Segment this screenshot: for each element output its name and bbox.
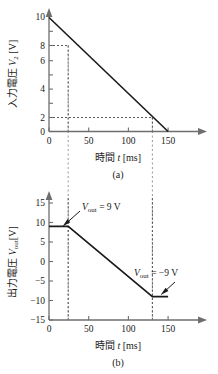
panel-a-ytick-2: 2 [40,113,45,123]
panel-a-ytick-6: 6 [40,56,45,66]
panel-b-ylabel-main: 出力電圧 [6,258,18,298]
panel-b-caption: (b) [112,357,124,369]
panel-b-ytick-10: 10 [36,218,46,228]
panel-a-xtick-150: 150 [161,136,176,146]
svg-text:出力電圧 Vout[V]: 出力電圧 Vout[V] [6,226,20,297]
panel-a-xtick-0: 0 [47,136,52,146]
panel-b-ytick-5: 5 [40,237,45,247]
panel-b-xtick-150: 150 [161,324,176,334]
panel-a-ytick-0: 0 [40,127,45,137]
panel-a-xtick-50: 50 [84,136,94,146]
panel-b-ytick-neg10: −10 [30,296,45,306]
panel-b-x-axis-title: 時間 t [ms] [95,340,141,351]
panel-a-xlabel-unit: [ms] [123,152,141,163]
panel-b-xlabel-unit: [ms] [123,340,141,351]
panel-a-xtick-100: 100 [121,136,136,146]
panel-b-xtick-50: 50 [84,324,94,334]
panel-b-ylabel-sub: out [12,240,20,249]
figure-container: 0 2 4 6 8 10 0 50 100 150 入力電圧 [0,0,218,374]
panel-b-xtick-0: 0 [47,324,52,334]
panel-a-caption: (a) [112,169,123,181]
panel-b-xlabel-main: 時間 [95,340,115,351]
panel-a-ylabel-main: 入力電圧 [6,68,18,108]
svg-text:入力電圧 V2 [V]: 入力電圧 V2 [V] [6,40,20,109]
panel-b-ytick-15: 15 [36,198,46,208]
panel-a-ytick-10: 10 [36,12,46,22]
panel-b-xtick-100: 100 [121,324,136,334]
panel-b-ytick-neg15: −15 [30,315,45,325]
panel-a-ytick-8: 8 [40,41,45,51]
dual-panel-line-chart: 0 2 4 6 8 10 0 50 100 150 入力電圧 [0,0,218,374]
panel-a-xlabel-main: 時間 [95,152,115,163]
panel-b-ytick-neg5: −5 [35,276,45,286]
panel-a-y-axis-title: 入力電圧 V2 [V] [6,40,20,109]
panel-a-ylabel-unit: [V] [7,40,18,54]
panel-b-y-axis-title: 出力電圧 Vout[V] [6,226,20,297]
panel-b-ylabel-unit: [V] [7,226,18,240]
panel-a-ytick-4: 4 [40,84,45,94]
panel-a-x-axis-title: 時間 t [ms] [95,152,141,163]
panel-b-ytick-0: 0 [40,257,45,267]
